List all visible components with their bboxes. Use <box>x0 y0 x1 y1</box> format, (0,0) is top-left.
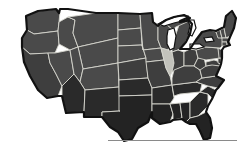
lake-michigan <box>167 28 176 50</box>
state-OK[interactable] <box>119 78 152 96</box>
state-SD[interactable] <box>118 28 142 46</box>
figure-rule <box>108 140 237 141</box>
lake-ontario <box>204 37 214 42</box>
region-west <box>22 9 120 117</box>
state-ND[interactable] <box>118 13 141 30</box>
us-map-svg[interactable] <box>0 0 237 149</box>
state-OR[interactable] <box>22 30 59 54</box>
us-map-figure <box>0 0 237 149</box>
state-AR[interactable] <box>152 85 174 104</box>
